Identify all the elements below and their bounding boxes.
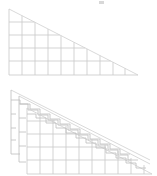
layer-back — [11, 90, 150, 160]
layer-middle — [19, 96, 150, 164]
grid-triangle-panel — [0, 0, 157, 88]
staircase-triangle-panel — [0, 88, 157, 176]
hypotenuse — [9, 9, 138, 75]
